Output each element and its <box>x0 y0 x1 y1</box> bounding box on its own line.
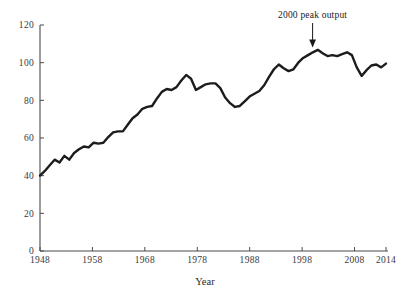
annotation-peak-output: 2000 peak output <box>278 10 347 47</box>
x-axis-title: Year <box>195 276 215 287</box>
annotation-arrow-head <box>309 39 316 47</box>
chart-container: 020406080100120 194819581968197819881998… <box>0 0 410 299</box>
x-tick-label: 2008 <box>344 255 364 265</box>
y-tick-label: 80 <box>24 96 34 106</box>
x-tick-label: 1958 <box>82 255 102 265</box>
annotation-label: 2000 peak output <box>278 10 347 20</box>
y-tick-label: 100 <box>19 58 34 68</box>
x-tick-label: 1948 <box>30 255 50 265</box>
y-tick-label: 60 <box>24 133 34 143</box>
y-tick-label: 120 <box>19 20 34 30</box>
x-tick-label: 1968 <box>135 255 155 265</box>
y-tick-label: 40 <box>24 171 34 181</box>
x-axis-ticks: 19481958196819781988199820082014 <box>30 247 396 265</box>
series-line-output <box>40 50 386 176</box>
x-tick-label: 2014 <box>376 255 396 265</box>
x-tick-label: 1978 <box>187 255 207 265</box>
y-tick-label: 20 <box>24 209 34 219</box>
x-tick-label: 1988 <box>240 255 260 265</box>
x-tick-label: 1998 <box>292 255 312 265</box>
line-chart: 020406080100120 194819581968197819881998… <box>0 0 410 299</box>
